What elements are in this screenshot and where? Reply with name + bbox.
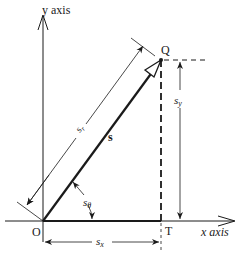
point-o-label: O [32,225,41,239]
x-component-label: sx [96,235,104,249]
y-axis-label: y axis [42,3,71,17]
magnitude-dim-seg-main-low [27,138,76,205]
point-t-label: T [165,224,173,238]
point-q [159,58,163,62]
vector-diagram: y axis x axis O Q T s sr sθ sx sy [0,0,242,257]
magnitude-extension-q [131,38,155,56]
magnitude-dim-seg-main-high [86,46,143,124]
y-component-label: sy [174,94,182,108]
magnitude-extension-o [17,202,43,221]
x-axis-label: x axis [200,225,229,239]
magnitude-dimension-line-a [25,124,53,208]
vector-s-label: s [108,130,113,144]
point-q-label: Q [161,43,170,57]
vector-s [43,71,153,221]
magnitude-dim-seg-mid [49,130,57,175]
magnitude-dimension-line-1 [24,118,48,208]
vector-s-arrowhead [145,60,161,77]
magnitude-label: sr [73,122,88,135]
angle-arc-upper [73,182,84,195]
magnitude-dimension-line-lower [26,116,47,207]
svg-text:sr: sr [73,122,88,135]
angle-label: sθ [83,196,91,210]
